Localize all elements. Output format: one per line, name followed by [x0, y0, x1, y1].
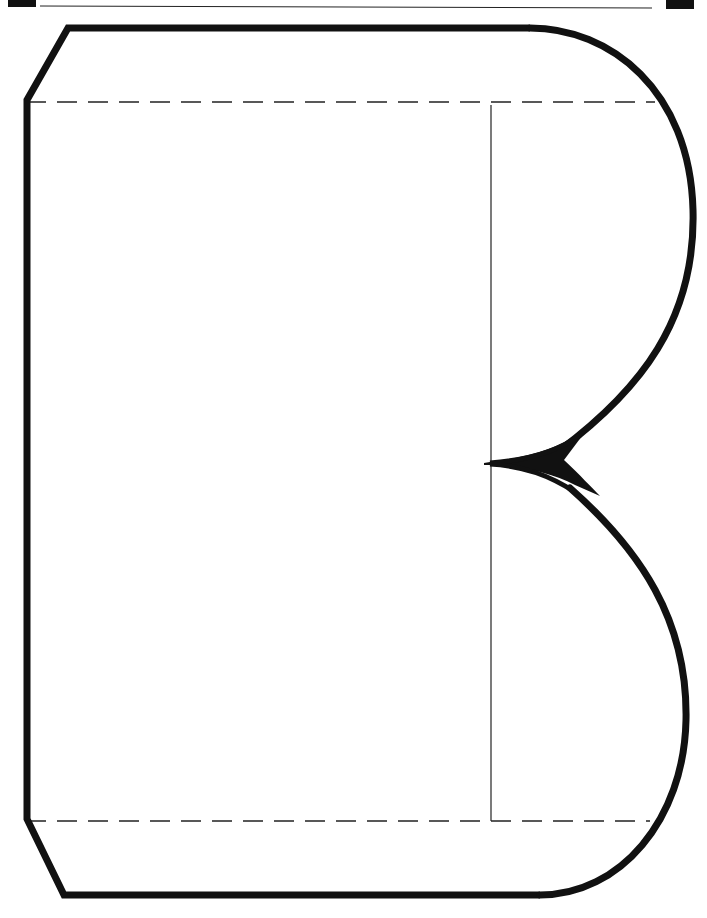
corner-marker-right: [666, 0, 694, 9]
b-bottom-bowl: [540, 488, 686, 895]
b-outline-left: [27, 28, 540, 895]
top-margin-line: [40, 6, 652, 8]
corner-marker-left: [8, 0, 36, 7]
b-top-bowl: [530, 28, 693, 450]
letter-b-diagram: [0, 0, 707, 918]
